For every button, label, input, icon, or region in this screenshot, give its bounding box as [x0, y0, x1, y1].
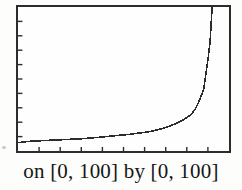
- scan-artifact: [2, 146, 6, 149]
- plot-frame: [16, 5, 231, 153]
- calculator-graph-figure: on [0, 100] by [0, 100]: [0, 0, 242, 190]
- plot-svg: [18, 7, 229, 151]
- function-curve: [18, 7, 212, 143]
- window-caption: on [0, 100] by [0, 100]: [0, 159, 242, 184]
